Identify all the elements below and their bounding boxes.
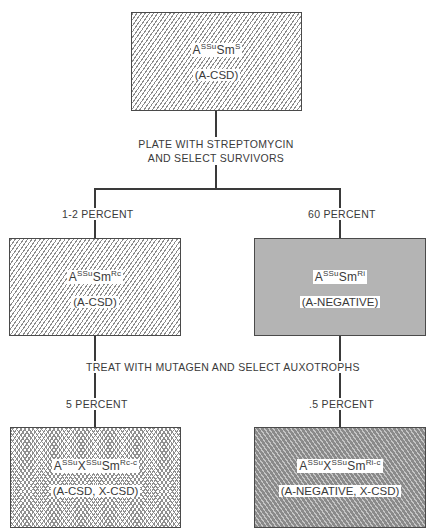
top-genotype: ASSuSmS (132, 42, 301, 57)
mid-right-phenotype: (A-NEGATIVE) (255, 296, 425, 308)
mid-left-strain-box: ASSuSmRc (A-CSD) (9, 238, 181, 336)
left-branch2-label: 5 PERCENT (66, 398, 128, 410)
step2-caption: TREAT WITH MUTAGEN AND SELECT AUXOTROPHS (86, 361, 350, 373)
mid-left-phenotype: (A-CSD) (10, 296, 180, 308)
top-phenotype: (A-CSD) (132, 69, 301, 81)
right-branch2-label: .5 PERCENT (309, 398, 374, 410)
connector-right-2 (339, 335, 341, 427)
top-strain-box: ASSuSmS (A-CSD) (131, 12, 302, 111)
bottom-left-phenotype: (A-CSD, X-CSD) (11, 485, 180, 497)
right-branch1-label: 60 PERCENT (308, 208, 376, 220)
step1-caption: PLATE WITH STREPTOMYCIN AND SELECT SURVI… (118, 137, 314, 165)
mid-right-strain-box: ASSuSmRi (A-NEGATIVE) (254, 238, 426, 336)
mid-left-genotype: ASSuSmRc (10, 269, 180, 284)
left-branch1-label: 1-2 PERCENT (62, 208, 134, 220)
bottom-right-genotype: ASSuXSSuSmRi-c (255, 458, 425, 473)
bottom-right-strain-box: ASSuXSSuSmRi-c (A-NEGATIVE, X-CSD) (254, 427, 426, 528)
mid-right-genotype: ASSuSmRi (255, 269, 425, 284)
connector-left-2 (94, 335, 96, 427)
bottom-right-phenotype: (A-NEGATIVE, X-CSD) (255, 485, 425, 497)
bottom-left-strain-box: ASSuXSSuSmRc-c (A-CSD, X-CSD) (10, 427, 181, 528)
bottom-left-genotype: ASSuXSSuSmRc-c (11, 458, 180, 473)
connector-split-1 (94, 188, 340, 190)
